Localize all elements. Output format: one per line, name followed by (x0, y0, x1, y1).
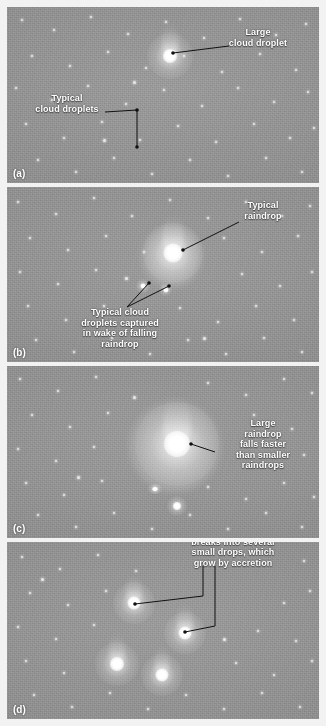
captured-droplet-right (159, 283, 172, 296)
small-drop-lower-right (141, 654, 183, 696)
panel-label-b: (b) (13, 347, 26, 358)
annotation-large-raindrop-speed: Large raindrop falls faster than smaller… (211, 418, 315, 471)
raindrop-body-b (141, 225, 203, 287)
panel-b: Typical raindrop Typical cloud droplets … (7, 187, 319, 362)
annotation-typical-cloud-droplets: Typical cloud droplets (19, 93, 115, 114)
panel-c: Large raindrop falls faster than smaller… (7, 366, 319, 538)
panel-label-a: (a) (13, 168, 25, 179)
small-drop-upper-left (113, 582, 155, 624)
droplet-growth-figure: Large cloud droplet Typical cloud drople… (0, 0, 326, 726)
panel-d-leader-lines (7, 542, 319, 719)
panel-d: Large raindrop breaks into several small… (7, 542, 319, 719)
smaller-raindrop-below-c (167, 496, 187, 516)
panel-d-vignette (7, 542, 319, 719)
panel-d-grain (7, 542, 319, 719)
annotation-typical-raindrop: Typical raindrop (213, 200, 313, 221)
annotation-raindrop-breakup: Large raindrop breaks into several small… (155, 542, 311, 568)
small-drop-upper-right (164, 612, 206, 654)
annotation-large-cloud-droplet: Large cloud droplet (203, 27, 313, 48)
small-drop-lower-left (95, 642, 139, 686)
typical-raindrop-glow (143, 223, 203, 283)
large-cloud-droplet-glow (147, 33, 193, 79)
panel-label-c: (c) (13, 523, 25, 534)
large-raindrop-body-c (129, 400, 221, 492)
large-raindrop-glow-c (135, 402, 219, 486)
panel-label-d: (d) (13, 704, 26, 715)
annotation-captured-cloud-droplets: Typical cloud droplets captured in wake … (55, 307, 185, 349)
smaller-raindrop-wake-c (147, 484, 163, 494)
captured-droplet-left (136, 279, 150, 293)
panel-a: Large cloud droplet Typical cloud drople… (7, 7, 319, 183)
